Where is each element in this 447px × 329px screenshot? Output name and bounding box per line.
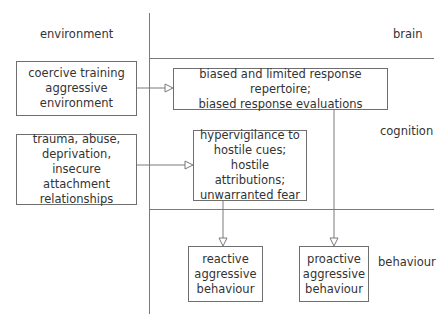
node-proactive-aggression: proactive aggressive behaviour <box>299 246 369 302</box>
node-coercive-environment: coercive training aggressive environment <box>16 61 137 116</box>
zone-label-environment: environment <box>40 27 113 41</box>
node-hypervigilance: hypervigilance to hostile cues; hostile … <box>193 130 307 201</box>
cognition-behaviour-divider <box>149 209 434 210</box>
node-reactive-aggression: reactive aggressive behaviour <box>188 246 263 302</box>
node-biased-response: biased and limited response repertoire; … <box>173 68 388 110</box>
zone-label-cognition: cognition <box>380 124 433 138</box>
node-text: biased and limited response repertoire; … <box>174 67 387 112</box>
node-text: hypervigilance to hostile cues; hostile … <box>194 128 306 203</box>
brain-cognition-divider <box>149 58 434 59</box>
node-text: proactive aggressive behaviour <box>303 252 365 297</box>
node-text: trauma, abuse, deprivation, insecure att… <box>17 132 136 207</box>
zone-label-behaviour: behaviour <box>378 255 436 269</box>
zone-label-brain: brain <box>393 27 423 41</box>
node-text: reactive aggressive behaviour <box>194 252 256 297</box>
node-text: coercive training aggressive environment <box>28 66 125 111</box>
node-trauma: trauma, abuse, deprivation, insecure att… <box>16 134 137 205</box>
